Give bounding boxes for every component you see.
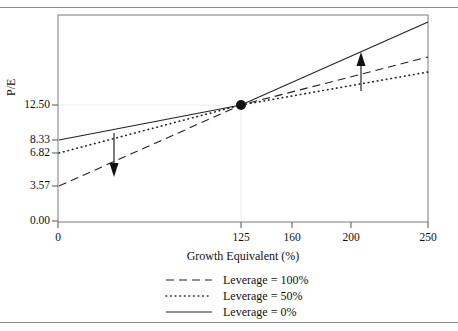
y-tick-label-3-57: 3.57 (8, 180, 50, 192)
legend-item-leverage-50: Leverage = 50% (0, 288, 458, 304)
y-tick-marks (52, 105, 58, 221)
x-tick-label-0: 0 (44, 232, 72, 244)
down-arrow-annotation (110, 133, 119, 177)
legend-item-leverage-100: Leverage = 100% (0, 272, 458, 288)
x-tick-label-200: 200 (337, 232, 365, 244)
legend-swatch-dashed-icon (165, 274, 213, 286)
legend-label-leverage-0: Leverage = 0% (223, 305, 296, 320)
legend-swatch-dotted-icon (165, 290, 213, 302)
y-tick-label-12-50: 12.50 (8, 99, 50, 111)
y-tick-label-6-82: 6.82 (8, 147, 50, 159)
y-axis-title: P/E (4, 79, 19, 96)
up-arrow-annotation (357, 52, 366, 91)
y-tick-label-0-00: 0.00 (8, 215, 50, 227)
legend-label-leverage-100: Leverage = 100% (223, 273, 308, 288)
legend-swatch-solid-icon (165, 306, 213, 318)
x-axis-title: Growth Equivalent (%) (58, 249, 428, 264)
bottom-divider-rule (0, 322, 458, 323)
x-tick-label-160: 160 (278, 232, 306, 244)
intersection-point-marker (236, 100, 246, 110)
legend-label-leverage-50: Leverage = 50% (223, 289, 302, 304)
x-tick-marks (58, 222, 428, 228)
y-tick-label-8-33: 8.33 (8, 134, 50, 146)
chart-legend: Leverage = 100% Leverage = 50% Leverage … (0, 272, 458, 320)
legend-item-leverage-0: Leverage = 0% (0, 304, 458, 320)
x-tick-label-250: 250 (414, 232, 442, 244)
x-tick-label-125: 125 (227, 232, 255, 244)
chart-figure: 12.50 8.33 6.82 3.57 0.00 0 125 160 200 … (0, 0, 458, 331)
